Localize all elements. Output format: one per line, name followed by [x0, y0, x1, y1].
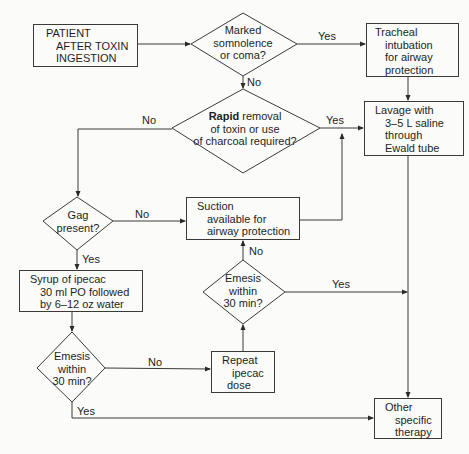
decision-emesis-left-line-2: within: [42, 363, 102, 376]
start-line-1: PATIENT: [46, 27, 137, 40]
tracheal-line-2: intubation: [375, 39, 458, 52]
repeat-line-1: Repeat: [222, 354, 274, 367]
decision-emesis-left-line-1: Emesis: [42, 350, 102, 363]
lavage-line-4: Ewald tube: [375, 142, 463, 155]
edge-label-rapid-no: No: [142, 114, 156, 126]
decision-gag-line-1: Gag: [49, 209, 107, 222]
start-line-2: AFTER TOXIN: [46, 40, 137, 53]
decision-somnolence-line-2: somnolence: [205, 37, 281, 50]
flowchart-canvas: PATIENT AFTER TOXIN INGESTION Marked som…: [0, 0, 469, 454]
decision-emesis-right-line-1: Emesis: [213, 272, 273, 285]
decision-rapid-bold: Rapid: [209, 110, 240, 122]
edge-label-emesis-right-yes: Yes: [332, 278, 350, 290]
syrup-line-1: Syrup of ipecac: [30, 273, 142, 286]
decision-gag: Gag present?: [49, 209, 107, 234]
other-therapy-box: Other specific therapy: [374, 398, 442, 439]
decision-somnolence: Marked somnolence or coma?: [205, 24, 281, 62]
lavage-line-2: 3–5 L saline: [375, 117, 463, 130]
repeat-line-2: ipecac: [222, 367, 274, 380]
edge-label-emesis-left-no: No: [148, 356, 162, 368]
edge-label-rapid-yes: Yes: [326, 114, 344, 126]
lavage-line-3: through: [375, 129, 463, 142]
suction-box: Suction available for airway protection: [186, 197, 300, 240]
tracheal-line-1: Tracheal: [375, 26, 458, 39]
other-line-1: Other: [385, 401, 441, 414]
decision-gag-line-2: present?: [49, 222, 107, 235]
edge-label-gag-yes: Yes: [82, 253, 100, 265]
edge-label-emesis-left-yes: Yes: [77, 405, 95, 417]
decision-rapid-line1-rest: removal: [239, 110, 281, 122]
other-line-3: therapy: [385, 426, 441, 439]
edge-label-emesis-right-no: No: [249, 245, 263, 257]
lavage-box: Lavage with 3–5 L saline through Ewald t…: [364, 101, 464, 156]
tracheal-intubation-box: Tracheal intubation for airway protectio…: [366, 23, 459, 77]
suction-line-3: airway protection: [197, 225, 299, 238]
decision-emesis-right-line-3: 30 min?: [213, 297, 273, 310]
edge-label-somnolence-yes: Yes: [318, 30, 336, 42]
decision-rapid-line-2: of toxin or use: [186, 123, 304, 136]
start-line-3: INGESTION: [46, 52, 137, 65]
repeat-ipecac-box: Repeat ipecac dose: [211, 351, 275, 393]
tracheal-line-4: protection: [375, 64, 458, 77]
lavage-line-1: Lavage with: [375, 104, 463, 117]
decision-somnolence-line-1: Marked: [205, 24, 281, 37]
tracheal-line-3: for airway: [375, 51, 458, 64]
decision-rapid-line-1: Rapid removal: [186, 110, 304, 123]
decision-emesis-left-line-3: 30 min?: [42, 375, 102, 388]
other-line-2: specific: [385, 414, 441, 427]
suction-line-1: Suction: [197, 200, 299, 213]
edge-label-gag-no: No: [135, 208, 149, 220]
start-box-patient: PATIENT AFTER TOXIN INGESTION: [33, 24, 138, 67]
repeat-line-3: dose: [222, 379, 274, 392]
decision-emesis-right: Emesis within 30 min?: [213, 272, 273, 310]
decision-rapid: Rapid removal of toxin or use of charcoa…: [186, 110, 304, 148]
decision-emesis-right-line-2: within: [213, 285, 273, 298]
suction-line-2: available for: [197, 213, 299, 226]
decision-somnolence-line-3: or coma?: [205, 49, 281, 62]
syrup-line-3: by 6–12 oz water: [30, 298, 142, 311]
edge-label-somnolence-no: No: [247, 76, 261, 88]
decision-emesis-left: Emesis within 30 min?: [42, 350, 102, 388]
syrup-line-2: 30 ml PO followed: [30, 286, 142, 299]
decision-rapid-line-3: of charcoal required?: [186, 135, 304, 148]
syrup-ipecac-box: Syrup of ipecac 30 ml PO followed by 6–1…: [19, 270, 143, 312]
